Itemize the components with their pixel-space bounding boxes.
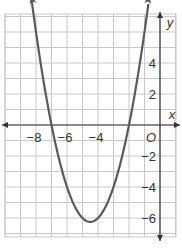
y-tick-label: −6 (141, 211, 156, 226)
y-tick-label: 2 (149, 87, 156, 102)
y-axis-label: y (166, 15, 175, 30)
y-tick-label: 4 (149, 56, 156, 71)
axis-labels: −8−6−442−2−4−6xyO (27, 15, 176, 226)
y-tick-label: −4 (141, 180, 156, 195)
x-axis-label: x (168, 107, 176, 122)
parabola-curve (31, 0, 148, 222)
parabola-graph: −8−6−442−2−4−6xyO (0, 0, 182, 248)
y-tick-label: −2 (141, 149, 156, 164)
origin-label: O (146, 130, 156, 145)
x-tick-label: −4 (89, 130, 104, 145)
axes (2, 0, 180, 241)
x-tick-label: −8 (27, 130, 42, 145)
x-tick-label: −6 (58, 130, 73, 145)
